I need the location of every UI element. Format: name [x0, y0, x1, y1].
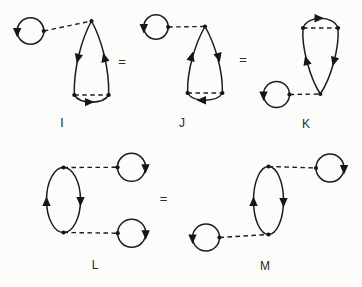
diagram-l: L: [42, 153, 150, 272]
arrow-down-icon: [259, 92, 267, 102]
fermion-bubble: [264, 82, 290, 108]
arrow-down-icon: [340, 165, 348, 175]
fermion-bubble: [118, 153, 146, 181]
diagram-label-j: J: [179, 116, 185, 130]
arrow-right-icon: [315, 14, 325, 22]
vertex-dot: [107, 93, 111, 97]
fermion-bubble: [144, 15, 168, 39]
fermion-bubble: [193, 224, 220, 251]
diagram-label-i: I: [60, 116, 63, 130]
arrow-down-icon: [279, 198, 287, 208]
vertex-dot: [72, 93, 76, 97]
lens-loop: [47, 168, 81, 233]
dashed-interaction-line: [44, 21, 92, 31]
fermion-bubble: [316, 154, 344, 182]
diagram-i: I: [13, 18, 111, 130]
dashed-interaction-line: [269, 167, 317, 169]
vertex-dot: [186, 91, 190, 95]
arrow-right-icon: [85, 98, 95, 106]
diagram-label-k: K: [302, 117, 310, 131]
arrow-up-icon: [186, 51, 196, 62]
diagram-label-m: M: [260, 259, 270, 273]
arrow-up-icon: [42, 197, 50, 207]
fermion-bubble: [17, 18, 44, 45]
diagram-m: M: [188, 154, 348, 273]
arrow-down-icon: [13, 28, 21, 38]
arrow-left-icon: [197, 96, 207, 104]
dashed-interaction-line: [220, 235, 269, 238]
vertex-dot: [266, 232, 270, 236]
lens-loop: [254, 167, 284, 235]
equals-sign: =: [160, 191, 168, 206]
dashed-interaction-line: [168, 27, 205, 28]
dashed-interaction-line: [64, 233, 118, 234]
diagram-k: K: [259, 14, 340, 131]
equals-sign: =: [118, 54, 126, 69]
arrow-down-icon: [142, 230, 150, 240]
arrow-down-icon: [141, 164, 149, 174]
dashed-interaction-line: [290, 94, 321, 95]
feynman-diagrams-figure: I = J = K: [0, 0, 362, 287]
fermion-bubble: [118, 219, 146, 247]
arrow-down-icon: [188, 235, 196, 245]
arrow-up-icon: [249, 197, 257, 207]
arrow-down-icon: [140, 24, 148, 34]
arrow-down-icon: [76, 197, 84, 207]
vertex-dot: [220, 91, 224, 95]
equals-sign: =: [239, 52, 247, 67]
diagram-j: J: [140, 15, 225, 130]
diagram-label-l: L: [92, 258, 99, 272]
vertex-dot: [318, 92, 322, 96]
figure-page: I = J = K: [0, 0, 362, 287]
arrow-down-icon: [329, 56, 340, 67]
